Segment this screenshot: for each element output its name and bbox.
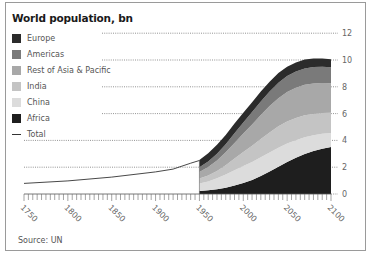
x-tick-label: 1850	[106, 203, 127, 224]
x-tick-label: 1900	[150, 203, 171, 224]
x-tick-label: 1950	[194, 203, 215, 224]
source-note: Source: UN	[18, 236, 63, 245]
x-tick-label: 1750	[19, 203, 40, 224]
y-tick-label: 6	[342, 110, 347, 119]
y-tick-label: 2	[342, 163, 347, 172]
y-tick-label: 0	[342, 190, 347, 199]
x-tick-label: 2000	[238, 203, 259, 224]
chart-plot: 0246810121750180018501900195020002050210…	[0, 0, 372, 264]
x-tick-label: 1800	[62, 203, 83, 224]
y-tick-label: 12	[342, 29, 352, 38]
total-line	[24, 161, 199, 184]
x-tick-label: 2050	[282, 203, 303, 224]
x-tick-label: 2100	[326, 203, 347, 224]
y-tick-label: 10	[342, 56, 352, 65]
y-tick-label: 8	[342, 83, 347, 92]
y-tick-label: 4	[342, 136, 347, 145]
